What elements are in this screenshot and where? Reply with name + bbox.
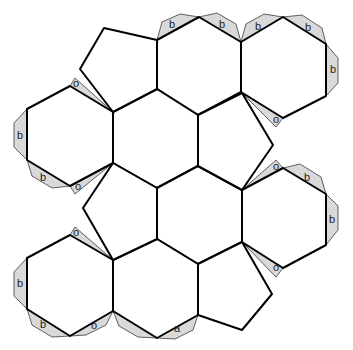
tab-label-b: b: [219, 18, 225, 30]
tab-label-b: b: [40, 318, 46, 330]
tab-label-b: b: [17, 277, 23, 289]
tab-label-b: b: [169, 18, 175, 30]
tab-label-b: b: [305, 21, 311, 33]
tab-label-b: b: [304, 171, 310, 183]
tab-label-o: o: [273, 160, 279, 172]
tab-label-o: o: [91, 319, 97, 331]
tab-label-b: b: [330, 63, 336, 75]
faces: [27, 17, 326, 338]
polyhedron-net-diagram: bbbbboobboobboobboa: [0, 0, 353, 350]
tab-label-o: o: [273, 113, 279, 125]
tab-label-o: o: [75, 180, 81, 192]
tab-label-b: b: [329, 213, 335, 225]
tab-label-o: o: [73, 226, 79, 238]
tab-label-o: o: [273, 261, 279, 273]
tab-label-b: b: [40, 171, 46, 183]
tab-label-b: b: [255, 20, 261, 32]
tab-label-a: a: [174, 322, 181, 334]
tab-label-b: b: [17, 129, 23, 141]
tab-label-o: o: [73, 77, 79, 89]
